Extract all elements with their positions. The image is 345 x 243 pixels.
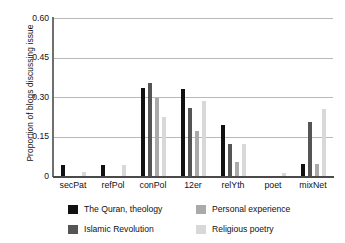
bar (308, 122, 312, 176)
bar-group (133, 18, 173, 176)
bar-group (213, 18, 253, 176)
bar (301, 164, 305, 176)
legend-swatch-icon (68, 225, 78, 234)
bar (221, 125, 225, 176)
bar (202, 101, 206, 176)
y-tick-label: 0.45 (9, 52, 49, 62)
bar-chart-figure: Proportion of blogs discussing issue 00.… (0, 0, 345, 243)
bar-group (93, 18, 133, 176)
bar (61, 165, 65, 176)
bar-group (53, 18, 93, 176)
bar-group (253, 18, 293, 176)
bar (188, 108, 192, 176)
bar (195, 131, 199, 176)
bar (235, 162, 239, 176)
legend-label: Religious poetry (212, 224, 274, 234)
bar (228, 144, 232, 176)
y-tick-label: 0.15 (9, 131, 49, 141)
chart-legend: The Quran, theologyPersonal experienceIs… (68, 199, 336, 239)
legend-item: Islamic Revolution (68, 224, 196, 234)
legend-item: Religious poetry (196, 224, 336, 234)
bar-group (293, 18, 333, 176)
legend-item: Personal experience (196, 204, 336, 214)
bar (141, 88, 145, 176)
bar-group (173, 18, 213, 176)
bar (148, 83, 152, 176)
bar (155, 98, 159, 176)
x-axis-line (53, 176, 334, 178)
y-axis-line (52, 17, 54, 177)
bar (162, 117, 166, 176)
legend-label: Personal experience (212, 204, 290, 214)
legend-label: The Quran, theology (84, 204, 162, 214)
bar (322, 109, 326, 176)
y-tick-label: 0.30 (9, 92, 49, 102)
legend-swatch-icon (196, 225, 206, 234)
bar (315, 164, 319, 176)
y-tick-label: 0 (9, 171, 49, 181)
bar (122, 165, 126, 176)
y-tick-label: 0.60 (9, 13, 49, 23)
x-tick-label: mixNet (283, 180, 343, 190)
bar (101, 165, 105, 176)
bar (242, 144, 246, 176)
legend-swatch-icon (68, 205, 78, 214)
bar (181, 89, 185, 176)
legend-label: Islamic Revolution (84, 224, 154, 234)
legend-item: The Quran, theology (68, 204, 196, 214)
plot-area (53, 18, 333, 176)
legend-swatch-icon (196, 205, 206, 214)
